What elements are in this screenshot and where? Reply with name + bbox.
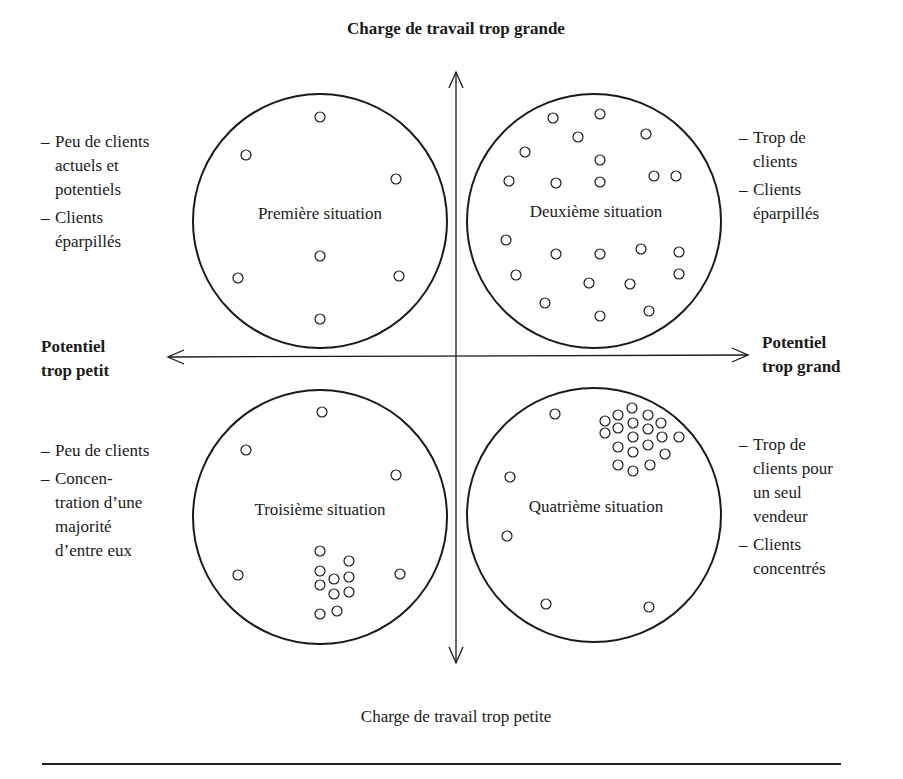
client-dot-icon bbox=[625, 279, 635, 289]
client-dot-icon bbox=[595, 177, 605, 187]
client-dot-icon bbox=[636, 244, 646, 254]
client-dot-icon bbox=[674, 269, 684, 279]
notes-situation-1: –Peu de clientsactuels etpotentiels–Clie… bbox=[41, 130, 149, 258]
dash-bullet-icon: – bbox=[739, 126, 748, 150]
client-dot-icon bbox=[584, 278, 594, 288]
client-dot-icon bbox=[548, 113, 558, 123]
client-dot-icon bbox=[395, 569, 405, 579]
client-dot-icon bbox=[613, 410, 623, 420]
client-dot-icon bbox=[315, 112, 325, 122]
top-axis-label: Charge de travail trop grande bbox=[251, 17, 661, 41]
dash-bullet-icon: – bbox=[41, 130, 50, 154]
dash-bullet-icon: – bbox=[41, 439, 50, 463]
client-dot-icon bbox=[600, 428, 610, 438]
client-dot-icon bbox=[502, 531, 512, 541]
dash-bullet-icon: – bbox=[739, 433, 748, 457]
client-dot-icon bbox=[550, 409, 560, 419]
right-axis-label: Potentiel trop grand bbox=[762, 331, 841, 379]
client-dot-icon bbox=[540, 298, 550, 308]
note-line: tration d’une bbox=[55, 491, 149, 515]
client-dot-icon bbox=[505, 472, 515, 482]
client-dot-icon bbox=[595, 249, 605, 259]
note-item: –Clientsconcentrés bbox=[739, 533, 833, 581]
client-dot-icon bbox=[644, 306, 654, 316]
note-line: Concen- bbox=[55, 467, 149, 491]
notes-situation-2: –Trop declients–Clientséparpillés bbox=[739, 126, 819, 230]
note-item: –Clientséparpillés bbox=[739, 178, 819, 226]
note-line: éparpillés bbox=[753, 202, 819, 226]
note-line: éparpillés bbox=[55, 230, 149, 254]
client-dot-icon bbox=[394, 271, 404, 281]
bottom-axis-label: Charge de travail trop petite bbox=[251, 705, 661, 729]
left-axis-label-line-2: trop petit bbox=[41, 359, 109, 383]
client-dot-icon bbox=[520, 147, 530, 157]
note-item: –Trop declients bbox=[739, 126, 819, 174]
client-dot-icon bbox=[627, 403, 637, 413]
dash-bullet-icon: – bbox=[41, 467, 50, 491]
client-dot-icon bbox=[657, 432, 667, 442]
note-line: un seul bbox=[753, 481, 833, 505]
client-dot-icon bbox=[551, 249, 561, 259]
client-dot-icon bbox=[511, 270, 521, 280]
dash-bullet-icon: – bbox=[41, 206, 50, 230]
note-line: Trop de bbox=[753, 126, 819, 150]
client-dot-icon bbox=[315, 609, 325, 619]
situation-title-3: Troisième situation bbox=[220, 500, 420, 520]
right-axis-label-line-1: Potentiel bbox=[762, 331, 841, 355]
situation-title-4: Quatrième situation bbox=[496, 497, 696, 517]
client-dot-icon bbox=[329, 574, 339, 584]
client-dot-icon bbox=[613, 442, 623, 452]
client-dot-icon bbox=[595, 109, 605, 119]
client-dot-icon bbox=[501, 235, 511, 245]
client-dot-icon bbox=[645, 460, 655, 470]
note-item: –Clientséparpillés bbox=[41, 206, 149, 254]
client-dot-icon bbox=[315, 566, 325, 576]
client-dot-icon bbox=[317, 407, 327, 417]
client-dot-icon bbox=[504, 176, 514, 186]
client-dot-icon bbox=[391, 470, 401, 480]
client-dot-icon bbox=[643, 410, 653, 420]
client-dot-icon bbox=[660, 449, 670, 459]
client-dot-icon bbox=[600, 416, 610, 426]
bottom-divider bbox=[42, 763, 841, 765]
client-dot-icon bbox=[241, 150, 251, 160]
client-dot-icon bbox=[628, 418, 638, 428]
client-dot-icon bbox=[233, 570, 243, 580]
client-dot-icon bbox=[613, 423, 623, 433]
client-dot-icon bbox=[674, 247, 684, 257]
client-dot-icon bbox=[241, 445, 251, 455]
client-dot-icon bbox=[671, 171, 681, 181]
client-dot-icon bbox=[674, 432, 684, 442]
situation-title-2: Deuxième situation bbox=[496, 202, 696, 222]
note-line: vendeur bbox=[753, 505, 833, 529]
note-line: concentrés bbox=[753, 557, 833, 581]
client-dot-icon bbox=[613, 460, 623, 470]
note-item: –Peu de clientsactuels etpotentiels bbox=[41, 130, 149, 202]
client-dot-icon bbox=[595, 311, 605, 321]
client-dot-icon bbox=[628, 447, 638, 457]
client-dot-icon bbox=[344, 572, 354, 582]
client-dot-icon bbox=[391, 174, 401, 184]
quadrant-diagram bbox=[0, 0, 903, 779]
client-dot-icon bbox=[656, 418, 666, 428]
dash-bullet-icon: – bbox=[739, 178, 748, 202]
client-dot-icon bbox=[329, 589, 339, 599]
note-line: d’entre eux bbox=[55, 539, 149, 563]
client-dot-icon bbox=[649, 171, 659, 181]
note-line: Trop de bbox=[753, 433, 833, 457]
dash-bullet-icon: – bbox=[739, 533, 748, 557]
left-axis-label-line-1: Potentiel bbox=[41, 335, 109, 359]
note-line: potentiels bbox=[55, 178, 149, 202]
situation-title-1: Première situation bbox=[220, 204, 420, 224]
client-dot-icon bbox=[643, 424, 653, 434]
left-axis-label: Potentiel trop petit bbox=[41, 335, 109, 383]
client-dot-icon bbox=[233, 273, 243, 283]
note-line: clients pour bbox=[753, 457, 833, 481]
note-line: clients bbox=[753, 150, 819, 174]
client-dot-icon bbox=[573, 132, 583, 142]
client-dot-icon bbox=[595, 155, 605, 165]
note-line: majorité bbox=[55, 515, 149, 539]
right-axis-label-line-2: trop grand bbox=[762, 355, 841, 379]
client-dot-icon bbox=[628, 432, 638, 442]
note-line: Peu de clients bbox=[55, 439, 149, 463]
